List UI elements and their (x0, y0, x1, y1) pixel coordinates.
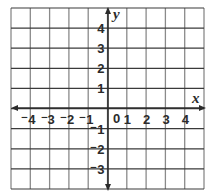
y-axis-label: y (111, 6, 120, 22)
origin-label: 0 (113, 111, 120, 126)
x-tick-label: ⁻3 (41, 112, 55, 127)
coordinate-plane: x y 0 ⁻4⁻3⁻2⁻11234 4321⁻1⁻2⁻3 (0, 0, 213, 196)
y-tick-label: ⁻1 (90, 122, 104, 137)
y-tick-labels: 4321⁻1⁻2⁻3 (90, 21, 105, 177)
x-axis-left-arrow-icon (11, 105, 18, 111)
y-tick-label: 2 (97, 61, 104, 76)
x-tick-label: 2 (143, 112, 150, 127)
x-tick-label: 3 (162, 112, 169, 127)
x-tick-label: 1 (124, 112, 131, 127)
x-tick-label: ⁻2 (60, 112, 74, 127)
y-tick-label: 1 (97, 81, 104, 96)
x-tick-label: 4 (182, 112, 190, 127)
y-tick-label: 4 (97, 21, 105, 36)
x-axis-right-arrow-icon (199, 105, 206, 111)
x-axis-label: x (191, 90, 200, 106)
y-tick-label: ⁻2 (90, 142, 104, 157)
x-tick-label: ⁻4 (21, 112, 36, 127)
y-axis-down-arrow-icon (105, 184, 111, 191)
axes: x y 0 (11, 6, 206, 191)
y-tick-label: 3 (97, 41, 104, 56)
x-tick-labels: ⁻4⁻3⁻2⁻11234 (21, 112, 189, 127)
y-tick-label: ⁻3 (90, 162, 104, 177)
